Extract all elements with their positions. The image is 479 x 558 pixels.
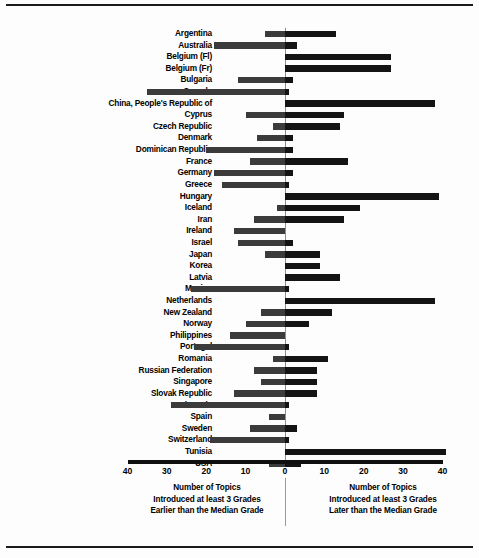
- bar-row: [0, 341, 479, 353]
- bar-row: [0, 156, 479, 168]
- bar-later: [285, 344, 289, 350]
- bar-later: [285, 449, 446, 455]
- bar-later: [285, 205, 360, 211]
- bar-row: [0, 202, 479, 214]
- bar-later: [285, 89, 289, 95]
- bar-row: [0, 225, 479, 237]
- bar-row: [0, 307, 479, 319]
- bar-row: [0, 237, 479, 249]
- bar-earlier: [265, 251, 285, 257]
- bar-later: [285, 379, 317, 385]
- bar-row: [0, 40, 479, 52]
- bar-later: [285, 367, 317, 373]
- bar-later: [285, 147, 293, 153]
- diverging-bar-chart: ArgentinaAustraliaBelgium (Fl)Belgium (F…: [0, 20, 479, 540]
- bar-later: [285, 135, 293, 141]
- bar-earlier: [206, 147, 285, 153]
- right-caption-line-2: Introduced at least 3 Grades: [288, 494, 478, 506]
- axis-tick-label: 10: [320, 466, 330, 476]
- bottom-divider-rule: [6, 546, 473, 548]
- bar-later: [285, 158, 348, 164]
- bar-earlier: [246, 321, 285, 327]
- bar-earlier: [191, 286, 286, 292]
- bar-later: [285, 100, 435, 106]
- bar-earlier: [246, 112, 285, 118]
- bar-later: [285, 240, 293, 246]
- bar-row: [0, 144, 479, 156]
- bar-earlier: [273, 123, 285, 129]
- bar-later: [285, 170, 293, 176]
- axis-tick-label: 20: [201, 466, 211, 476]
- bar-later: [285, 286, 289, 292]
- bar-row: [0, 272, 479, 284]
- bar-earlier: [234, 228, 285, 234]
- bar-row: [0, 260, 479, 272]
- bar-row: [0, 330, 479, 342]
- axis-tick-label: 20: [359, 466, 369, 476]
- bar-earlier: [234, 390, 285, 396]
- bar-earlier: [273, 356, 285, 362]
- right-axis-caption: Number of Topics Introduced at least 3 G…: [288, 482, 478, 517]
- bar-earlier: [261, 309, 285, 315]
- bar-row: [0, 283, 479, 295]
- left-caption-line-1: Number of Topics: [112, 482, 302, 494]
- bar-later: [285, 31, 336, 37]
- bar-earlier: [257, 135, 285, 141]
- bar-row: [0, 318, 479, 330]
- bar-earlier: [222, 182, 285, 188]
- bar-later: [285, 182, 289, 188]
- bar-later: [285, 356, 328, 362]
- axis-tick-label: 40: [438, 466, 448, 476]
- bar-earlier: [250, 425, 285, 431]
- bar-row: [0, 132, 479, 144]
- axis-tick-label: 30: [398, 466, 408, 476]
- axis-line: [128, 460, 443, 464]
- bar-earlier: [254, 216, 286, 222]
- bar-earlier: [250, 158, 285, 164]
- left-caption-line-2: Introduced at least 3 Grades: [112, 494, 302, 506]
- bar-earlier: [194, 344, 285, 350]
- bar-row: [0, 74, 479, 86]
- bar-later: [285, 65, 391, 71]
- bar-later: [285, 425, 297, 431]
- bar-row: [0, 434, 479, 446]
- bar-row: [0, 109, 479, 121]
- bar-later: [285, 193, 439, 199]
- bar-later: [285, 77, 293, 83]
- bar-row: [0, 376, 479, 388]
- axis-tick-label: 0: [283, 466, 288, 476]
- bar-row: [0, 63, 479, 75]
- bar-earlier: [277, 205, 285, 211]
- bar-earlier: [238, 240, 285, 246]
- bar-row: [0, 51, 479, 63]
- left-axis-caption: Number of Topics Introduced at least 3 G…: [112, 482, 302, 517]
- bar-earlier: [261, 379, 285, 385]
- axis-tick-label: 30: [162, 466, 172, 476]
- bar-earlier: [254, 367, 286, 373]
- bar-row: [0, 214, 479, 226]
- bar-later: [285, 112, 344, 118]
- bar-row: [0, 400, 479, 412]
- bar-row: [0, 98, 479, 110]
- bar-later: [285, 54, 391, 60]
- bar-row: [0, 249, 479, 261]
- bar-row: [0, 86, 479, 98]
- bar-row: [0, 446, 479, 458]
- bar-later: [285, 390, 317, 396]
- bar-earlier: [210, 437, 285, 443]
- figure-page: ArgentinaAustraliaBelgium (Fl)Belgium (F…: [0, 0, 479, 558]
- bar-later: [285, 437, 289, 443]
- bar-row: [0, 295, 479, 307]
- bar-later: [285, 274, 340, 280]
- bar-later: [285, 321, 309, 327]
- bar-later: [285, 123, 340, 129]
- bar-later: [285, 263, 320, 269]
- top-divider-rule: [6, 4, 473, 6]
- right-caption-line-3: Later than the Median Grade: [288, 505, 478, 517]
- bar-row: [0, 411, 479, 423]
- bar-earlier: [171, 402, 285, 408]
- bar-earlier: [230, 332, 285, 338]
- bar-row: [0, 353, 479, 365]
- bar-earlier: [214, 42, 285, 48]
- bar-earlier: [214, 170, 285, 176]
